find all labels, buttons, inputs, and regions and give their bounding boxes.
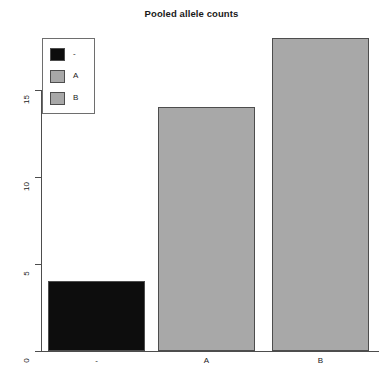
legend-swatch-icon-1 [50,70,65,83]
legend-label-2: B [73,94,78,102]
y-axis-line [41,90,42,352]
y-tick-label-2: 10 [22,177,31,197]
legend-item-1[interactable]: A [50,68,94,84]
legend-item-2[interactable]: B [50,90,94,106]
bar-category-2[interactable] [272,38,369,351]
x-tick-label-2: B [301,356,341,365]
x-axis-line [41,351,379,352]
chart-title: Pooled allele counts [0,8,383,19]
y-tick-label-3: 15 [22,90,31,110]
bar-category-1[interactable] [158,107,255,351]
y-tick-mark-1 [35,264,41,265]
legend-label-1: A [73,72,78,80]
y-tick-mark-3 [35,90,41,91]
bar-category-0[interactable] [48,281,145,351]
legend-swatch-icon-0 [50,48,65,61]
x-tick-label-1: A [187,356,227,365]
y-tick-label-0: 0 [22,351,31,371]
legend-swatch-icon-2 [50,92,65,105]
legend-label-0: - [73,50,76,58]
x-tick-label-0: - [77,356,117,365]
legend-item-0[interactable]: - [50,46,94,62]
y-tick-label-1: 5 [22,264,31,284]
chart-canvas: Pooled allele counts 051015 -AB -AB [0,0,383,377]
chart-legend: -AB [42,38,95,114]
y-tick-mark-2 [35,177,41,178]
